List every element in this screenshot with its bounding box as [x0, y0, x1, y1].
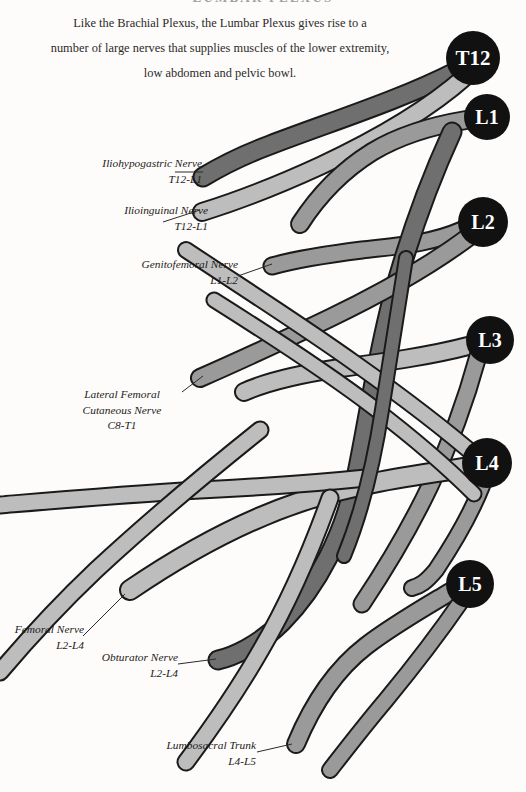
vertebra-label-l5: L5: [458, 573, 481, 595]
nerve-label-lumbosacral-trunk: Lumbosacral Trunk L4-L5: [136, 738, 256, 769]
vertebra-marker-l1[interactable]: L1: [464, 94, 510, 140]
nerve-label-femoral-name: Femoral Nerve: [15, 623, 84, 635]
lumbar-plexus-diagram-page: LUMBAR PLEXUS Like the Brachial Plexus, …: [0, 0, 526, 792]
vertebra-label-l2: L2: [471, 211, 494, 233]
leader-line-femoral: [83, 594, 125, 636]
vertebra-marker-l5[interactable]: L5: [446, 560, 494, 608]
nerve-label-lumbosacral-trunk-roots: L4-L5: [136, 754, 256, 770]
vertebra-label-l4: L4: [475, 452, 498, 474]
nerve-label-lateral-femoral-cutaneous-roots: C8-T1: [62, 418, 182, 434]
vertebra-marker-l3[interactable]: L3: [466, 316, 514, 364]
leader-line-lumbosacral-trunk: [257, 744, 292, 752]
vertebra-marker-l2[interactable]: L2: [458, 197, 508, 247]
nerve-label-obturator: Obturator Nerve L2-L4: [72, 650, 178, 681]
nerve-label-ilioinguinal-roots: T12-L1: [88, 219, 208, 235]
vertebra-label-l1: L1: [475, 106, 498, 128]
nerve-label-genitofemoral-roots: L1-L2: [110, 273, 238, 289]
nerve-label-lateral-femoral-cutaneous-name-2: Cutaneous Nerve: [62, 403, 182, 419]
nerve-label-lateral-femoral-cutaneous-name-1: Lateral Femoral: [84, 388, 160, 400]
nerve-label-femoral: Femoral Nerve L2-L4: [6, 622, 84, 653]
nerve-label-genitofemoral: Genitofemoral Nerve L1-L2: [110, 257, 238, 288]
nerve-label-genitofemoral-name: Genitofemoral Nerve: [142, 258, 238, 270]
vertebra-marker-l4[interactable]: L4: [462, 438, 512, 488]
nerve-label-ilioinguinal-name: Ilioinguinal Nerve: [124, 204, 208, 216]
nerve-label-lateral-femoral-cutaneous: Lateral Femoral Cutaneous Nerve C8-T1: [62, 387, 182, 434]
nerve-label-iliohypogastric: Iliohypogastric Nerve T12-L1: [72, 156, 202, 187]
vertebra-label-t12: T12: [455, 46, 490, 70]
nerve-label-obturator-roots: L2-L4: [72, 666, 178, 682]
nerve-label-lumbosacral-trunk-name: Lumbosacral Trunk: [166, 739, 256, 751]
vertebra-marker-t12[interactable]: T12: [446, 31, 500, 85]
nerve-label-iliohypogastric-roots: T12-L1: [72, 172, 202, 188]
nerve-label-ilioinguinal: Ilioinguinal Nerve T12-L1: [88, 203, 208, 234]
nerve-label-obturator-name: Obturator Nerve: [102, 651, 178, 663]
vertebra-label-l3: L3: [478, 329, 501, 351]
nerve-label-iliohypogastric-name: Iliohypogastric Nerve: [102, 157, 202, 169]
